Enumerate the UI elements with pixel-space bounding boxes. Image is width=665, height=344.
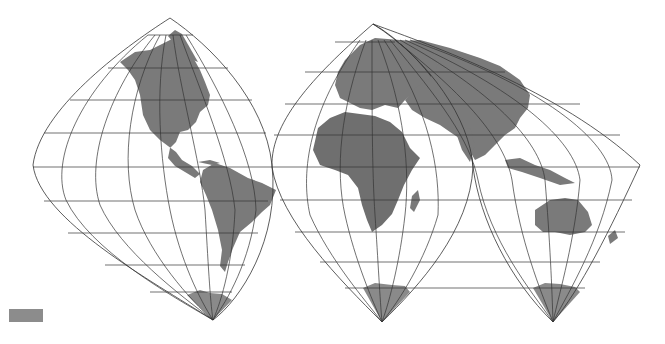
americas-lobe xyxy=(33,18,276,320)
africa xyxy=(313,112,420,232)
australia xyxy=(535,198,592,235)
legend-swatch xyxy=(9,309,43,322)
south-america xyxy=(200,163,276,272)
world-map xyxy=(0,0,665,344)
map-figure xyxy=(0,0,665,344)
madagascar xyxy=(410,190,420,212)
